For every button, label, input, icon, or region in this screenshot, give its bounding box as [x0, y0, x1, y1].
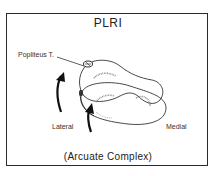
rotation-arrow-left [56, 72, 65, 112]
arcuate-marker [79, 90, 83, 96]
upper-plateau-outline [80, 60, 163, 103]
tibial-plateau-illustration [0, 0, 216, 176]
label-popliteus-tendon: Popliteus T. [18, 51, 54, 58]
rotation-arrow-right [85, 103, 94, 132]
hatch-medial [136, 96, 150, 106]
label-lateral: Lateral [52, 123, 73, 130]
label-medial: Medial [166, 123, 187, 130]
hatch-lateral-upper [94, 73, 116, 78]
popliteus-leader-line [57, 57, 84, 66]
diagram-caption: (Arcuate Complex) [0, 151, 216, 162]
